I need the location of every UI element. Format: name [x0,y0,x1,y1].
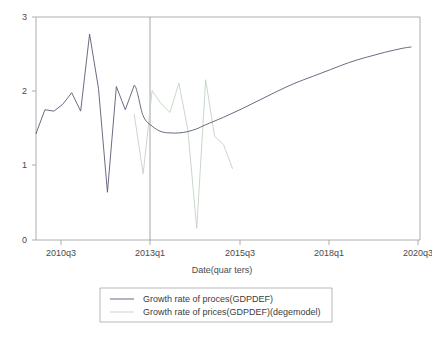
line-chart: 0 1 2 3 2010q3 2013q1 2015q3 2018q1 2020… [0,0,432,348]
y-tick-label-0: 0 [22,235,27,245]
plot-frame [36,17,420,240]
x-axis-tick-labels: 2010q3 2013q1 2015q3 2018q1 2020q3 [46,248,432,258]
x-tick-label-4: 2020q3 [403,248,432,258]
series-line-degemodel [134,80,232,229]
series-line-actual [36,34,411,192]
chart-legend: Growth rate of proces(GDPDEF) Growth rat… [100,288,332,322]
x-axis-ticks [61,240,418,245]
legend-label-actual: Growth rate of proces(GDPDEF) [143,294,273,304]
chart-container: 0 1 2 3 2010q3 2013q1 2015q3 2018q1 2020… [0,0,432,348]
y-tick-label-2: 2 [22,86,27,96]
y-axis-ticks [32,17,36,240]
x-axis-title: Date(quar ters) [192,265,253,275]
legend-label-degemodel: Growth rate of prices(GDPDEF)(degemodel) [143,307,321,317]
y-tick-label-1: 1 [22,160,27,170]
x-tick-label-1: 2013q1 [135,248,165,258]
x-tick-label-2: 2015q3 [225,248,255,258]
x-tick-label-3: 2018q1 [314,248,344,258]
y-axis-tick-labels: 0 1 2 3 [22,12,27,245]
y-tick-label-3: 3 [22,12,27,22]
x-tick-label-0: 2010q3 [46,248,76,258]
